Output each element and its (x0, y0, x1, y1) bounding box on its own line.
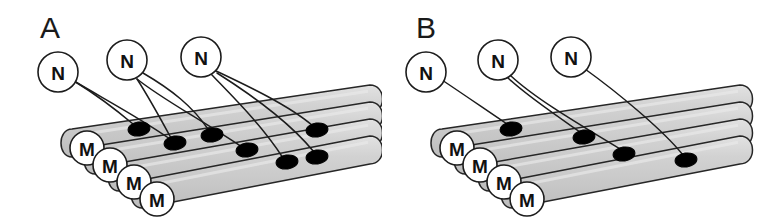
motor-neuron-label: N (120, 51, 134, 72)
axon-line (442, 80, 507, 124)
motor-neuron-label: N (194, 48, 208, 69)
axon-line (74, 81, 133, 124)
motor-neuron-label: N (491, 51, 505, 72)
motor-neuron-node: N (551, 37, 591, 77)
panel-b: MMMM NNN B (381, 0, 763, 221)
panel-a: MMMM NNN A (0, 0, 382, 221)
panel-b-canvas: MMMM NNN B (381, 0, 763, 221)
motor-neuron-node: N (181, 37, 221, 77)
muscle-fiber-label: M (472, 156, 488, 177)
motor-neuron-label: N (51, 63, 65, 84)
panel-a-letter: A (40, 11, 60, 44)
muscle-fiber-label: M (126, 173, 142, 194)
muscle-fiber-label: M (79, 139, 95, 160)
panel-b-letter: B (416, 11, 436, 44)
motor-neuron-label: N (419, 63, 433, 84)
motor-neuron-node: N (478, 40, 518, 80)
panel-b-neuron-nodes: NNN (406, 37, 591, 92)
panel-b-tubes (431, 85, 753, 208)
muscle-fiber-label: M (496, 173, 512, 194)
figure-root: MMMM NNN A MMMM NNN B (0, 0, 763, 221)
panel-a-canvas: MMMM NNN A (0, 0, 382, 221)
motor-neuron-node: N (406, 52, 446, 92)
muscle-fiber-node: M (140, 182, 174, 216)
muscle-fiber-label: M (102, 156, 118, 177)
motor-neuron-node: N (107, 40, 147, 80)
muscle-fiber-label: M (449, 139, 465, 160)
panel-a-tubes (61, 85, 382, 208)
motor-neuron-label: N (564, 48, 578, 69)
muscle-fiber-node: M (510, 182, 544, 216)
muscle-fiber-label: M (149, 190, 165, 211)
panel-a-neuron-nodes: NNN (38, 37, 221, 92)
motor-neuron-node: N (38, 52, 78, 92)
muscle-fiber-label: M (519, 190, 535, 211)
